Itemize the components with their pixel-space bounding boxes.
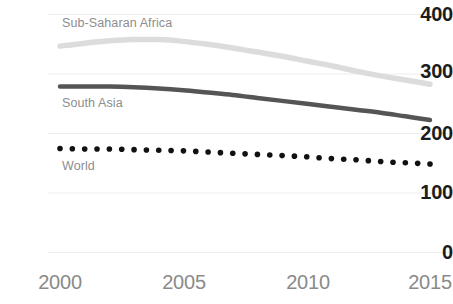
- series-point: [230, 150, 236, 156]
- x-axis-tick-2010: 2010: [268, 272, 348, 292]
- y-axis-tick-0: 0: [409, 242, 453, 262]
- series-point: [292, 153, 298, 159]
- x-axis-tick-2000: 2000: [20, 272, 100, 292]
- series-point: [279, 153, 285, 159]
- series-point: [131, 147, 137, 153]
- series-point: [70, 146, 76, 152]
- series-point: [242, 151, 248, 157]
- series-point: [57, 146, 63, 152]
- y-axis-tick-300: 300: [409, 61, 453, 81]
- y-axis-tick-200: 200: [409, 123, 453, 143]
- series-point: [82, 146, 88, 152]
- series-point: [255, 152, 261, 158]
- series-point: [205, 149, 211, 155]
- series-point: [329, 156, 335, 162]
- series-world: [57, 146, 433, 167]
- series-point: [168, 148, 174, 154]
- series-point: [403, 160, 409, 166]
- y-axis-tick-100: 100: [409, 182, 453, 202]
- series-point: [144, 147, 150, 153]
- series-label-world: World: [62, 160, 95, 173]
- chart-plot-area: [0, 0, 453, 304]
- x-axis-tick-2015: 2015: [390, 272, 453, 292]
- series-label-south-asia: South Asia: [62, 97, 123, 110]
- series-point: [427, 161, 433, 167]
- y-axis-tick-400: 400: [409, 4, 453, 24]
- series-label-sub-saharan-africa: Sub-Saharan Africa: [62, 17, 172, 30]
- series-point: [94, 146, 100, 152]
- series-point: [304, 154, 310, 160]
- series-point: [390, 159, 396, 165]
- series-point: [415, 161, 421, 167]
- chart-container: 400 300 200 100 0 2000 2005 2010 2015 Su…: [0, 0, 453, 304]
- series-point: [316, 155, 322, 161]
- series-point: [119, 147, 125, 153]
- series-point: [267, 152, 273, 158]
- series-point: [181, 148, 187, 154]
- series-point: [341, 156, 347, 162]
- x-axis-tick-2005: 2005: [144, 272, 224, 292]
- series-point: [193, 149, 199, 155]
- series-point: [378, 159, 384, 165]
- series-point: [366, 158, 372, 164]
- series-point: [107, 146, 113, 152]
- series-point: [156, 147, 162, 153]
- series-sub-saharan-africa: [60, 39, 430, 84]
- series-point: [218, 150, 224, 156]
- series-point: [353, 157, 359, 163]
